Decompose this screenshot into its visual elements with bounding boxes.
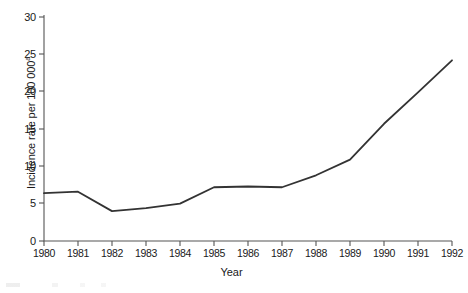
x-tick-label-1983: 1983	[129, 248, 163, 259]
scan-artifact	[6, 283, 126, 287]
x-tick-label-1986: 1986	[231, 248, 265, 259]
x-tick-label-1980: 1980	[27, 248, 61, 259]
x-tick-label-1992: 1992	[435, 248, 468, 259]
x-axis-label: Year	[0, 266, 463, 278]
x-tick-label-1991: 1991	[401, 248, 435, 259]
y-tick-marks	[39, 17, 44, 241]
x-tick-label-1981: 1981	[61, 248, 95, 259]
x-tick-label-1989: 1989	[333, 248, 367, 259]
x-tick-label-1988: 1988	[299, 248, 333, 259]
x-tick-label-1985: 1985	[197, 248, 231, 259]
x-tick-label-1982: 1982	[95, 248, 129, 259]
data-series-line	[44, 60, 452, 211]
x-tick-label-1990: 1990	[367, 248, 401, 259]
x-tick-label-1987: 1987	[265, 248, 299, 259]
x-tick-marks	[44, 241, 452, 246]
x-tick-label-1984: 1984	[163, 248, 197, 259]
